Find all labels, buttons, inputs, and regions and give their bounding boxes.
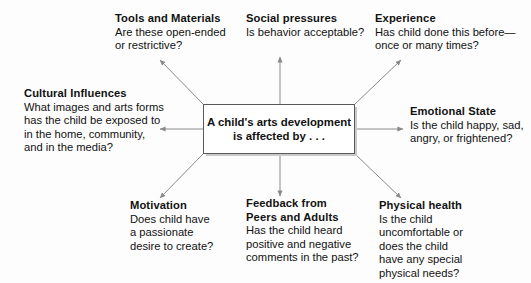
node-title: Feedback from: [246, 197, 359, 211]
node-title: Physical health: [379, 199, 463, 213]
diagram-canvas: A child's arts development is affected b…: [0, 0, 531, 283]
center-concept-box: A child's arts development is affected b…: [203, 104, 355, 154]
node-motivation: Motivation Does child have a passionate …: [130, 199, 213, 253]
node-line: Is the child: [379, 213, 463, 227]
node-title: Social pressures: [246, 12, 364, 26]
node-body: Is behavior acceptable?: [246, 26, 364, 40]
arrow-to-tools-and-materials: [160, 60, 203, 104]
node-title: Motivation: [130, 199, 213, 213]
node-line: Are these open-ended: [115, 26, 226, 40]
node-line: in the home, community,: [24, 128, 164, 142]
node-line: Is behavior acceptable?: [246, 26, 364, 40]
node-line: or restrictive?: [115, 39, 226, 53]
node-line: a passionate: [130, 226, 213, 240]
node-physical-health: Physical health Is the child uncomfortab…: [379, 199, 463, 281]
arrow-to-motivation: [160, 154, 203, 198]
center-line-1: A child's arts development: [207, 115, 351, 129]
node-line: Is the child happy, sad,: [410, 119, 524, 133]
node-line: angry, or frightened?: [410, 132, 524, 146]
node-body: Is the child happy, sad, angry, or frigh…: [410, 119, 524, 146]
arrow-to-experience: [355, 60, 401, 104]
node-tools-and-materials: Tools and Materials Are these open-ended…: [115, 12, 226, 53]
node-title: Emotional State: [410, 105, 524, 119]
node-line: and in the media?: [24, 141, 164, 155]
node-experience: Experience Has child done this before— o…: [375, 12, 516, 53]
node-line: once or many times?: [375, 39, 516, 53]
node-feedback-from-peers-and-adults: Feedback from Peers and Adults Has the c…: [246, 197, 359, 265]
node-line: desire to create?: [130, 240, 213, 254]
node-line: What images and arts forms: [24, 101, 164, 115]
node-title: Tools and Materials: [115, 12, 226, 26]
node-title: Cultural Influences: [24, 87, 164, 101]
node-body: Does child have a passionate desire to c…: [130, 213, 213, 254]
node-body: Has child done this before— once or many…: [375, 26, 516, 53]
node-line: Has the child heard: [246, 224, 359, 238]
node-line: Does child have: [130, 213, 213, 227]
node-cultural-influences: Cultural Influences What images and arts…: [24, 87, 164, 155]
node-body: What images and arts forms has the child…: [24, 101, 164, 155]
center-concept-text: A child's arts development is affected b…: [207, 115, 351, 143]
node-line: uncomfortable or: [379, 226, 463, 240]
arrow-to-physical-health: [355, 154, 401, 198]
node-line: have any special: [379, 253, 463, 267]
node-emotional-state: Emotional State Is the child happy, sad,…: [410, 105, 524, 146]
node-body: Are these open-ended or restrictive?: [115, 26, 226, 53]
node-line: Has child done this before—: [375, 26, 516, 40]
node-title: Experience: [375, 12, 516, 26]
node-social-pressures: Social pressures Is behavior acceptable?: [246, 12, 364, 39]
node-body: Has the child heard positive and negativ…: [246, 224, 359, 265]
node-line: positive and negative: [246, 238, 359, 252]
node-line: has the child be exposed to: [24, 114, 164, 128]
node-line: physical needs?: [379, 267, 463, 281]
node-title-second-line: Peers and Adults: [246, 211, 359, 225]
center-line-2: is affected by . . .: [207, 129, 351, 143]
node-line: does the child: [379, 240, 463, 254]
node-body: Is the child uncomfortable or does the c…: [379, 213, 463, 281]
node-line: comments in the past?: [246, 251, 359, 265]
